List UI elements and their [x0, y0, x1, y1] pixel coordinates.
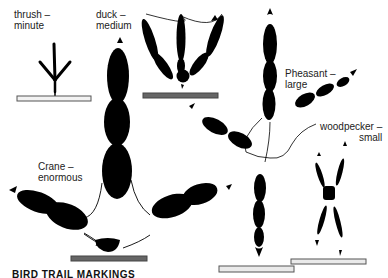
duck-label: duck – medium [96, 9, 132, 31]
thrush-label: thrush – minute [14, 9, 50, 31]
pheasant-scale-bar [219, 266, 294, 272]
bird-tracks-figure: thrush – minute duck – medium Pheasant –… [0, 0, 388, 278]
duck-track-icon [138, 14, 227, 89]
duck-scale-bar [143, 93, 218, 98]
figure-caption: BIRD TRAIL MARKINGS [12, 270, 135, 278]
woodpecker-track-icon [314, 141, 347, 256]
crane-label: Crane – enormous [38, 161, 82, 183]
thrush-track-icon [40, 44, 70, 98]
pheasant-label: Pheasant – large [285, 68, 336, 90]
crane-scale-bar [71, 256, 147, 261]
woodpecker-label: woodpecker – small [320, 121, 382, 143]
woodpecker-scale-bar [291, 259, 366, 264]
thrush-scale-bar [17, 96, 91, 101]
